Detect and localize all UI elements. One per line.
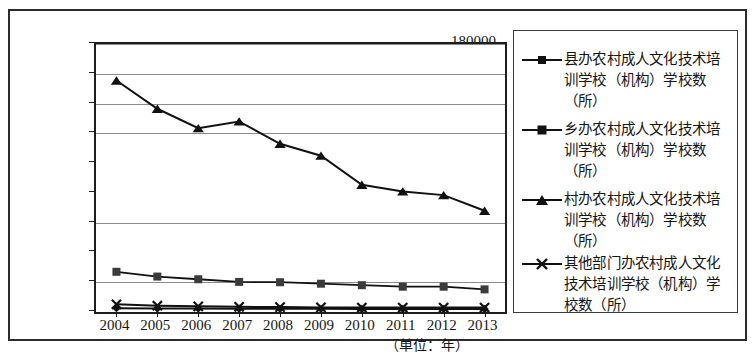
data-point-square	[235, 278, 243, 286]
series-line	[116, 304, 484, 307]
data-point-square	[276, 278, 284, 286]
legend-marker-square-icon	[520, 120, 564, 140]
legend-label: 村办农村成人文化技术培训学校（机构）学校数（所）	[564, 189, 733, 252]
series-line	[116, 80, 484, 210]
series-line	[116, 272, 484, 290]
data-point-square	[194, 275, 202, 283]
diamond-icon	[538, 56, 546, 64]
x-axis-tick-label: 2011	[378, 317, 424, 333]
legend-marker-diamond-icon	[520, 50, 564, 70]
data-point-square	[440, 283, 448, 291]
legend-label: 乡办农村成人文化技术培训学校（机构）学校数（所）	[564, 119, 733, 182]
chart-legend: 县办农村成人文化技术培训学校（机构）学校数（所）乡办农村成人文化技术培训学校（机…	[513, 30, 738, 313]
legend-entry[interactable]: 其他部门办农村成人文化技术培训学校（机构）学校数（所）	[520, 253, 733, 316]
data-point-square	[358, 281, 366, 289]
triangle-icon	[536, 195, 548, 205]
data-point-square	[112, 268, 120, 276]
data-point-square	[399, 283, 407, 291]
x-axis-tick-label: 2013	[460, 317, 506, 333]
legend-entry[interactable]: 县办农村成人文化技术培训学校（机构）学校数（所）	[520, 49, 733, 112]
x-axis-tick-label: 2004	[91, 317, 137, 333]
square-icon	[538, 126, 547, 135]
chart-area: 0200004000060000800001000001200001400001…	[16, 22, 496, 322]
data-point-square	[481, 285, 489, 293]
data-point-square	[153, 273, 161, 281]
x-axis-tick-label: 2009	[296, 317, 342, 333]
legend-marker-triangle-icon	[520, 190, 564, 210]
data-point-triangle	[111, 76, 122, 84]
x-axis-tick-label: 2005	[132, 317, 178, 333]
x-axis-tick-label: 2007	[214, 317, 260, 333]
legend-entry[interactable]: 乡办农村成人文化技术培训学校（机构）学校数（所）	[520, 119, 733, 182]
series-line	[116, 308, 484, 309]
legend-entry[interactable]: 村办农村成人文化技术培训学校（机构）学校数（所）	[520, 189, 733, 252]
plot-frame	[94, 42, 507, 314]
legend-label: 县办农村成人文化技术培训学校（机构）学校数（所）	[564, 49, 733, 112]
x-axis-tick-label: 2006	[173, 317, 219, 333]
data-point-square	[317, 280, 325, 288]
x-axis-tick-label: 2010	[337, 317, 383, 333]
legend-label: 其他部门办农村成人文化技术培训学校（机构）学校数（所）	[564, 253, 733, 316]
data-point-triangle	[479, 207, 490, 215]
x-axis-tick-label: 2008	[255, 317, 301, 333]
x-axis-tick-label: 2012	[419, 317, 465, 333]
data-point-triangle	[315, 151, 326, 159]
legend-marker-cross-icon	[520, 254, 564, 274]
series-lines	[96, 44, 505, 312]
cross-icon	[535, 257, 549, 271]
x-axis-unit-label: （单位：年）	[385, 337, 469, 353]
